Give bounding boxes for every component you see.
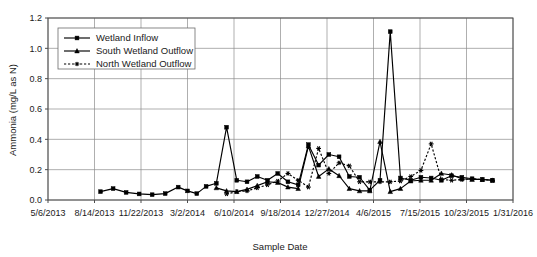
data-point-marker [195, 192, 199, 196]
data-point-marker [150, 193, 154, 197]
legend-label: South Wetland Outflow [96, 45, 193, 56]
data-point-marker [225, 125, 229, 129]
data-point-marker [176, 185, 180, 189]
data-point-marker [337, 155, 341, 159]
data-point-marker [255, 175, 259, 179]
data-point-marker [358, 175, 362, 179]
data-point-marker [317, 163, 321, 167]
y-tick-label: 0.6 [29, 104, 42, 114]
data-point-marker [214, 181, 218, 185]
data-point-marker [204, 184, 208, 188]
chart-legend: Wetland InflowSouth Wetland OutflowNorth… [58, 28, 195, 69]
data-point-marker [286, 180, 290, 184]
x-tick-label: 10/23/2015 [444, 208, 489, 218]
legend-label: North Wetland Outflow [96, 58, 192, 69]
y-axis-title: Ammonia (mg/L as N) [7, 64, 18, 156]
data-point-marker [137, 192, 141, 196]
y-tick-label: 0.4 [29, 135, 42, 145]
x-tick-label: 4/6/2015 [356, 208, 391, 218]
x-axis-title: Sample Date [253, 241, 308, 252]
x-tick-label: 5/6/2013 [30, 208, 65, 218]
y-tick-label: 0.8 [29, 74, 42, 84]
data-point-marker [235, 178, 239, 182]
x-tick-label: 1/31/2016 [493, 208, 533, 218]
x-tick-label: 7/15/2015 [400, 208, 440, 218]
x-tick-label: 9/18/2014 [260, 208, 300, 218]
ammonia-time-series-figure: 0.00.20.40.60.81.01.2 5/6/20138/14/20131… [0, 0, 537, 257]
data-point-marker [347, 175, 351, 179]
data-point-marker [276, 172, 280, 176]
chart-canvas: 0.00.20.40.60.81.01.2 5/6/20138/14/20131… [0, 0, 537, 257]
data-point-marker [124, 191, 128, 195]
data-point-marker [75, 36, 79, 40]
x-tick-label: 8/14/2013 [74, 208, 114, 218]
x-tick-label: 11/22/2013 [119, 208, 163, 218]
x-tick-label: 3/2/2014 [170, 208, 205, 218]
y-tick-label: 0.2 [29, 165, 42, 175]
data-point-marker [327, 153, 331, 157]
legend-label: Wetland Inflow [96, 32, 158, 43]
data-point-marker [186, 189, 190, 193]
y-tick-label: 0.0 [29, 195, 42, 205]
x-tick-label: 12/27/2014 [304, 208, 349, 218]
data-point-marker [111, 187, 115, 191]
data-point-marker [388, 30, 392, 34]
y-tick-label: 1.2 [29, 13, 42, 23]
x-tick-label: 6/10/2014 [214, 208, 254, 218]
data-point-marker [99, 190, 103, 194]
data-point-marker [163, 192, 167, 196]
y-tick-label: 1.0 [29, 44, 42, 54]
data-point-marker [245, 180, 249, 184]
